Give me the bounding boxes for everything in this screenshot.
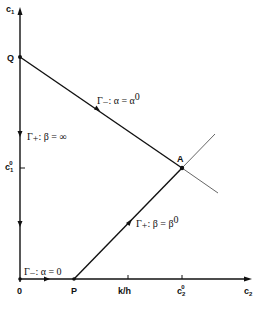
arrow-right-icon <box>44 277 50 282</box>
x-axis: c2 <box>20 277 253 298</box>
label-gamma-plus-beta0: Γ+: β = β0 <box>136 214 179 231</box>
arrow-icon <box>94 106 100 112</box>
phase-diagram: c1 c2 0 Q A P k/h c20 c10 Γ−: α = α0 Γ+:… <box>0 0 259 309</box>
point-p <box>72 277 76 281</box>
y-axis-arrow-icon <box>18 7 23 15</box>
label-gamma-plus-beta-inf: Γ+: β = ∞ <box>27 131 67 144</box>
x-axis-arrow-icon <box>244 277 252 282</box>
origin-point <box>18 277 22 281</box>
curve-gamma-plus-beta0-extension <box>182 134 215 168</box>
origin-label: 0 <box>17 286 22 296</box>
point-q-label: Q <box>7 53 14 63</box>
y-axis: c1 <box>6 4 23 282</box>
x-tick-kh-label: k/h <box>118 286 131 296</box>
point-a <box>180 166 184 170</box>
point-p-label: P <box>71 286 77 296</box>
curve-gamma-minus-alpha0-extension <box>182 168 218 193</box>
curve-gamma-minus-alpha0 <box>20 57 182 168</box>
y-axis-label: c1 <box>6 4 15 15</box>
arrow-down-icon <box>18 221 23 227</box>
x-tick-c2-0-label: c20 <box>177 284 186 297</box>
x-axis-label: c2 <box>244 286 253 297</box>
point-a-label: A <box>177 154 184 164</box>
label-gamma-minus-alpha0: Γ−: α = α0 <box>97 91 140 108</box>
label-gamma-minus-alpha-zero: Γ−: α = 0 <box>24 266 62 279</box>
y-tick-c1-0-label: c10 <box>5 160 14 173</box>
arrow-down-icon <box>18 131 23 137</box>
